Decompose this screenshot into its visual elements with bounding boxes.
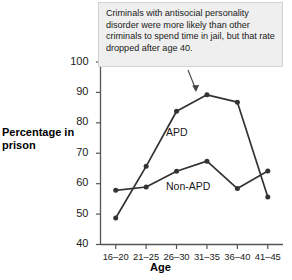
y-axis-tick-label: 70	[63, 146, 89, 158]
data-point-marker	[174, 169, 179, 174]
chart-series-lines	[113, 92, 270, 220]
data-point-marker	[204, 92, 209, 97]
chart-figure: Criminals with antisocial personality di…	[0, 0, 292, 280]
series-label-non-apd: Non-APD	[166, 180, 210, 192]
y-axis-tick-label: 40	[63, 237, 89, 249]
chart-axes	[101, 62, 284, 245]
callout-annotation-box: Criminals with antisocial personality di…	[98, 2, 283, 67]
data-point-marker	[265, 195, 270, 200]
data-point-marker	[113, 188, 118, 193]
y-axis-tick-label: 100	[63, 55, 89, 67]
data-point-marker	[235, 186, 240, 191]
data-point-marker	[174, 109, 179, 114]
x-axis-title: Age	[150, 261, 171, 273]
y-axis-tick-label: 80	[63, 115, 89, 127]
y-axis-ticks	[96, 62, 101, 245]
callout-arrow-icon	[188, 70, 199, 92]
data-point-marker	[113, 216, 118, 221]
x-axis-ticks	[116, 245, 268, 250]
series-line	[116, 95, 268, 218]
data-point-marker	[144, 185, 149, 190]
callout-text: Criminals with antisocial personality di…	[106, 8, 276, 54]
x-axis-tick-label: 41–45	[248, 251, 288, 262]
data-point-marker	[204, 159, 209, 164]
y-axis-tick-label: 60	[63, 176, 89, 188]
series-label-apd: APD	[166, 126, 188, 138]
y-axis-tick-label: 90	[63, 85, 89, 97]
data-point-marker	[235, 100, 240, 105]
y-axis-tick-label: 50	[63, 207, 89, 219]
data-point-marker	[265, 168, 270, 173]
data-point-marker	[144, 164, 149, 169]
